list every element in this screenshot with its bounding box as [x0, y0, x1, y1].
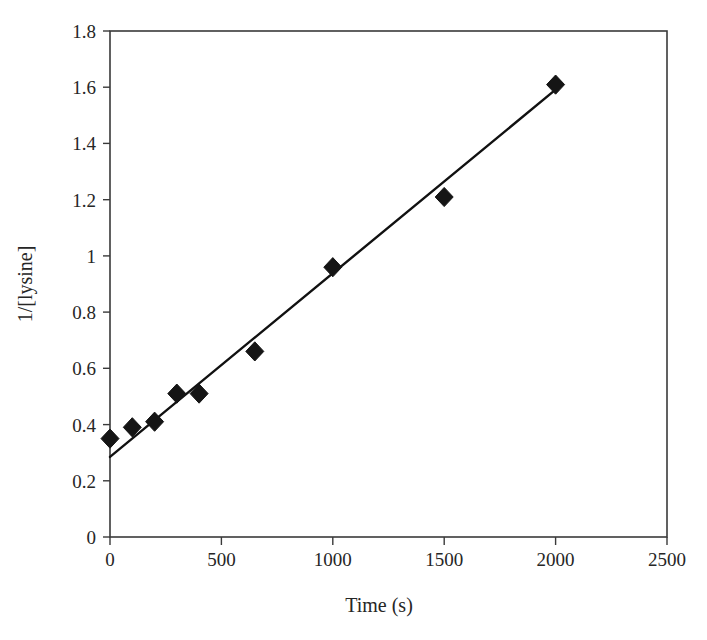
x-axis-tick-labels: 0 500 1000 1500 2000 2500: [105, 549, 686, 570]
y-tick-label: 1.4: [72, 133, 96, 154]
x-axis-tickmarks: [110, 537, 667, 545]
x-tick-label: 1000: [314, 549, 352, 570]
y-tick-label: 1.2: [72, 190, 96, 211]
y-tick-label: 0.2: [72, 471, 96, 492]
x-tick-label: 1500: [425, 549, 463, 570]
y-tick-label: 0: [87, 527, 97, 548]
y-axis-title: 1/[lysine]: [14, 246, 37, 323]
y-tick-label: 0.8: [72, 302, 96, 323]
y-axis-tick-labels: 0 0.2 0.4 0.6 0.8 1 1.2 1.4 1.6 1.8: [72, 21, 96, 548]
y-tick-label: 0.4: [72, 415, 96, 436]
y-tick-label: 1.8: [72, 21, 96, 42]
y-axis-tickmarks: [103, 31, 110, 537]
x-tick-label: 2000: [537, 549, 575, 570]
y-tick-label: 1.6: [72, 77, 96, 98]
x-tick-label: 0: [105, 549, 115, 570]
x-tick-label: 500: [207, 549, 236, 570]
chart-figure: 0 0.2 0.4 0.6 0.8 1 1.2 1.4 1.6 1.8 0 50…: [0, 0, 707, 640]
x-axis-title: Time (s): [345, 594, 413, 617]
x-tick-label: 2500: [648, 549, 686, 570]
scatter-plot-svg: 0 0.2 0.4 0.6 0.8 1 1.2 1.4 1.6 1.8 0 50…: [0, 0, 707, 640]
plot-background: [110, 31, 667, 537]
y-tick-label: 0.6: [72, 358, 96, 379]
y-tick-label: 1: [87, 246, 97, 267]
